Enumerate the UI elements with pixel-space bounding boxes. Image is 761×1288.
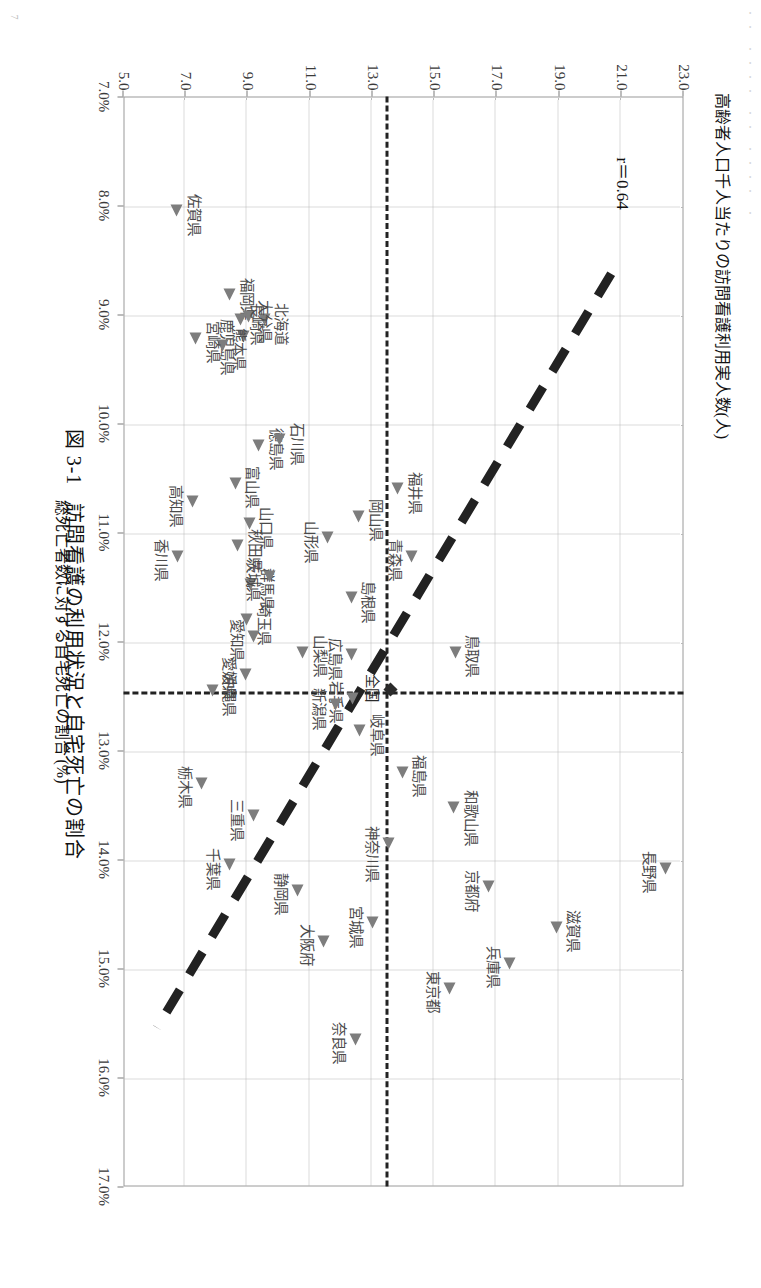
triangle-marker-icon [550, 921, 562, 933]
gridline-horizontal [308, 97, 309, 1185]
correlation-annotation: r＝0.64 [611, 157, 636, 209]
data-point-label: 神奈川県 [364, 826, 379, 882]
x-tick-mark [117, 532, 123, 533]
data-point-label: 山梨県 [311, 635, 326, 677]
rotated-figure-stage: ・・ ・・・・ ・・ ・・・・ ・ 高齢者人口千人当たりの訪問看護利用実人数(人… [0, 0, 761, 1288]
data-point-label: 福島県 [411, 755, 426, 797]
x-tick-label: 10.0% [94, 404, 111, 443]
triangle-marker-icon [449, 646, 461, 658]
data-point-label: 宮城県 [348, 905, 363, 947]
x-tick-label: 9.0% [94, 298, 111, 329]
triangle-marker-icon [234, 313, 246, 325]
y-tick-mark [495, 90, 496, 96]
x-tick-label: 11.0% [94, 513, 111, 551]
data-point-label: 静岡県 [272, 873, 287, 915]
data-point-label: 東京都 [424, 971, 439, 1013]
data-point-label: 広島県 [326, 637, 341, 679]
data-point-label: 石川県 [288, 422, 303, 464]
y-tick-label: 21.0 [612, 52, 629, 90]
triangle-marker-icon [346, 692, 358, 704]
triangle-marker-icon [296, 646, 308, 658]
data-point-label: 熊本県 [231, 328, 246, 370]
triangle-marker-icon [405, 550, 417, 562]
caption-number: 図 3-1 [62, 428, 84, 485]
triangle-marker-icon [223, 858, 235, 870]
x-tick-label: 8.0% [94, 189, 111, 220]
triangle-marker-icon [396, 766, 408, 778]
data-point-label: 新潟県 [311, 687, 326, 729]
scanned-page: ・・ ・・・・ ・・ ・・・・ ・ 高齢者人口千人当たりの訪問看護利用実人数(人… [0, 0, 761, 1288]
data-point-label: 山形県 [303, 520, 318, 562]
y-tick-mark [433, 90, 434, 96]
y-tick-mark [682, 90, 683, 96]
triangle-marker-icon [366, 916, 378, 928]
data-point-label: 福井県 [406, 471, 421, 513]
x-tick-mark [117, 750, 123, 751]
y-tick-label: 13.0 [363, 52, 380, 90]
triangle-marker-icon [382, 837, 394, 849]
triangle-marker-icon [317, 935, 329, 947]
triangle-marker-icon [345, 591, 357, 603]
triangle-marker-icon [329, 698, 341, 710]
triangle-marker-icon [223, 288, 235, 300]
gridline-horizontal [245, 97, 246, 1185]
data-point-label: 佐賀県 [185, 193, 200, 235]
data-point-label: 全国 [364, 673, 379, 701]
y-tick-label: 15.0 [426, 52, 443, 90]
triangle-marker-icon [170, 204, 182, 216]
y-tick-mark [122, 90, 123, 96]
y-tick-mark [246, 90, 247, 96]
gridline-horizontal [494, 97, 495, 1185]
x-tick-mark [117, 968, 123, 969]
gridline-vertical [124, 206, 682, 207]
x-tick-label: 15.0% [94, 949, 111, 988]
plot-canvas: r＝0.64 佐賀県北海道福岡県大分県長崎県鹿児島県熊本県宮崎県徳島県石川県富山… [123, 96, 683, 1186]
y-tick-label: 7.0 [177, 52, 194, 90]
y-tick-mark [184, 90, 185, 96]
x-tick-mark [117, 205, 123, 206]
data-point-label: 大阪府 [298, 924, 313, 966]
data-point-label: 青森県 [387, 539, 402, 581]
data-point-label: 宮崎県 [204, 321, 219, 363]
triangle-marker-icon [239, 668, 251, 680]
data-point-label: 栃木県 [177, 766, 192, 808]
triangle-marker-icon [353, 724, 365, 736]
gridline-horizontal [370, 97, 371, 1185]
y-tick-mark [558, 90, 559, 96]
gridline-horizontal [183, 97, 184, 1185]
y-tick-label: 17.0 [488, 52, 505, 90]
y-axis-title: 高齢者人口千人当たりの訪問看護利用実人数(人) [711, 92, 735, 439]
gridline-horizontal [557, 97, 558, 1185]
data-point-label: 滋賀県 [565, 910, 580, 952]
triangle-marker-icon [247, 630, 259, 642]
gridline-vertical [124, 642, 682, 643]
data-point-label: 和歌山県 [462, 790, 477, 846]
triangle-marker-icon [243, 517, 255, 529]
data-point-label: 長野県 [640, 851, 655, 893]
plot-area-wrapper: 高齢者人口千人当たりの訪問看護利用実人数(人) r＝0.64 佐賀県北海道福岡県… [123, 96, 683, 1186]
gridline-vertical [124, 424, 682, 425]
page-folio: 7 [8, 14, 19, 19]
data-point-label: 沖縄県 [221, 673, 236, 715]
triangle-marker-icon [352, 510, 364, 522]
data-point-label: 京都府 [463, 869, 478, 911]
x-tick-label: 14.0% [94, 840, 111, 879]
x-tick-mark [117, 1186, 123, 1187]
y-tick-mark [309, 90, 310, 96]
y-tick-mark [620, 90, 621, 96]
x-tick-mark [117, 423, 123, 424]
data-point-label: 岡山県 [367, 499, 382, 541]
triangle-marker-icon [189, 332, 201, 344]
triangle-marker-icon [391, 482, 403, 494]
data-point-label: 長崎県 [249, 302, 264, 344]
y-tick-mark [371, 90, 372, 96]
x-tick-label: 16.0% [94, 1058, 111, 1097]
data-point-label: 富山県 [244, 466, 259, 508]
trend-line [124, 97, 682, 1185]
gridline-vertical [124, 969, 682, 970]
x-tick-mark [117, 314, 123, 315]
triangle-marker-icon [206, 684, 218, 696]
triangle-marker-icon [252, 439, 264, 451]
figure-3-1: 高齢者人口千人当たりの訪問看護利用実人数(人) r＝0.64 佐賀県北海道福岡県… [0, 0, 761, 1288]
x-tick-mark [117, 859, 123, 860]
